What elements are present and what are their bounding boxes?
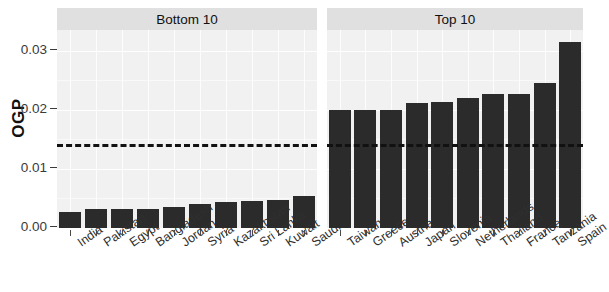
- y-axis-tick-mark: [50, 49, 57, 50]
- x-axis-tick-mark: [365, 230, 366, 236]
- y-axis-tick-label: 0.03: [5, 42, 57, 57]
- bar: [482, 94, 504, 228]
- y-axis-tick-label: 0.02: [5, 101, 57, 116]
- x-axis-tick-label: Bangladesh: [153, 238, 161, 249]
- gridline-vertical: [70, 30, 71, 228]
- x-axis-tick-label: Saudi Arabia: [309, 238, 317, 249]
- x-axis-tick-mark: [570, 230, 571, 236]
- x-axis-tick-mark: [493, 230, 494, 236]
- x-axis-tick-mark: [519, 230, 520, 236]
- x-axis-tick-label: Slovenia: [447, 238, 455, 249]
- x-axis-tick-label: Taiwan: [345, 238, 353, 249]
- bar: [380, 110, 402, 228]
- panel-strip-label: Bottom 10: [156, 12, 218, 27]
- y-axis-tick-text: 0.00: [21, 219, 47, 234]
- gridline-vertical: [226, 30, 227, 228]
- x-axis-tick-label: Japan: [422, 238, 430, 249]
- x-axis-tick-label: Netherlands: [473, 238, 481, 249]
- panel-strip: Top 10: [327, 8, 583, 30]
- y-axis-tick-label: 0.00: [5, 219, 57, 234]
- x-axis-tick-mark: [70, 230, 71, 236]
- y-axis-tick-mark: [50, 167, 57, 168]
- bar: [329, 110, 351, 228]
- bar: [559, 42, 581, 228]
- panel-strip-label: Top 10: [435, 12, 476, 27]
- x-axis-tick-label: Austria: [396, 238, 404, 249]
- x-axis-tick-mark: [545, 230, 546, 236]
- x-axis-tick-mark: [122, 230, 123, 236]
- x-axis-tick-mark: [391, 230, 392, 236]
- gridline-vertical: [200, 30, 201, 228]
- gridline-vertical: [96, 30, 97, 228]
- y-axis-tick-text: 0.02: [21, 101, 47, 116]
- x-axis-tick-mark: [468, 230, 469, 236]
- x-axis-tick-mark: [252, 230, 253, 236]
- bar: [457, 98, 479, 228]
- x-axis-tick-mark: [442, 230, 443, 236]
- y-axis-tick-text: 0.03: [21, 42, 47, 57]
- bar: [354, 110, 376, 228]
- y-axis-tick-text: 0.01: [21, 160, 47, 175]
- y-axis-tick-mark: [50, 108, 57, 109]
- x-axis-tick-label: Sri Lanka: [257, 238, 265, 249]
- reference-line: [57, 144, 317, 147]
- y-axis-tick-label: 0.01: [5, 160, 57, 175]
- y-axis-ticks: 0.000.010.020.03: [0, 0, 57, 292]
- x-axis-tick-label: Thailand: [498, 238, 506, 249]
- gridline-vertical: [278, 30, 279, 228]
- bar: [59, 212, 81, 228]
- x-axis-tick-label: Egypt: [127, 238, 135, 249]
- x-axis-tick-label: France: [524, 238, 532, 249]
- panel-strip: Bottom 10: [57, 8, 317, 30]
- bar: [534, 83, 556, 228]
- x-axis-tick-label: Pakistan: [101, 238, 109, 249]
- reference-line: [327, 144, 583, 147]
- gridline-vertical: [174, 30, 175, 228]
- x-axis-tick-label: Kazakhstan: [231, 238, 239, 249]
- x-axis-tick-label: Kuwait: [283, 238, 291, 249]
- x-axis-tick-mark: [96, 230, 97, 236]
- bar: [406, 103, 428, 228]
- x-axis-tick-mark: [278, 230, 279, 236]
- x-axis-tick-label: Jordan: [179, 238, 187, 249]
- x-axis-tick-label: Spain: [575, 238, 583, 249]
- x-axis-tick-mark: [174, 230, 175, 236]
- x-axis-tick-mark: [226, 230, 227, 236]
- gridline-vertical: [122, 30, 123, 228]
- gridline-vertical: [148, 30, 149, 228]
- x-axis-tick-mark: [148, 230, 149, 236]
- x-axis-tick-mark: [417, 230, 418, 236]
- x-axis-tick-mark: [304, 230, 305, 236]
- gridline-vertical: [252, 30, 253, 228]
- bar: [431, 102, 453, 228]
- x-axis-tick-label: Tanzania: [550, 238, 558, 249]
- y-axis-tick-mark: [50, 226, 57, 227]
- x-axis-tick-label: India: [75, 238, 83, 249]
- x-axis-tick-label: Syria: [205, 238, 213, 249]
- x-axis-tick-mark: [340, 230, 341, 236]
- panel-plot-area: [327, 30, 583, 228]
- panel-plot-area: [57, 30, 317, 228]
- x-axis-tick-mark: [200, 230, 201, 236]
- x-axis-tick-label: Greece: [370, 238, 378, 249]
